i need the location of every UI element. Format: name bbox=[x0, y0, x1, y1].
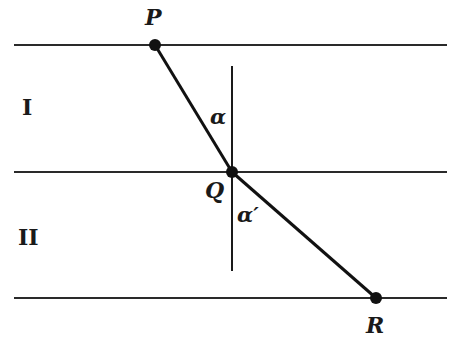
refraction-diagram: P Q R I II α α′ bbox=[0, 0, 460, 342]
label-r: R bbox=[365, 312, 384, 338]
point-q bbox=[226, 166, 238, 178]
point-r bbox=[370, 292, 382, 304]
point-p bbox=[149, 39, 161, 51]
label-p: P bbox=[144, 4, 163, 30]
region-label-upper: I bbox=[22, 94, 32, 120]
angle-label-incident: α bbox=[210, 104, 226, 129]
region-label-lower: II bbox=[18, 224, 39, 250]
refracted-ray bbox=[232, 172, 376, 298]
label-q: Q bbox=[205, 177, 224, 203]
angle-label-refracted: α′ bbox=[237, 202, 259, 227]
